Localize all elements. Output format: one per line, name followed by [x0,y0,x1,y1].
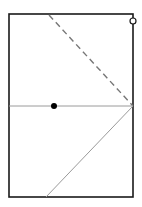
filled-point [51,103,57,109]
fold-dashed-line [49,15,133,106]
geometry-diagram [0,0,142,207]
diagonal-line [46,106,133,197]
open-point [130,18,136,24]
